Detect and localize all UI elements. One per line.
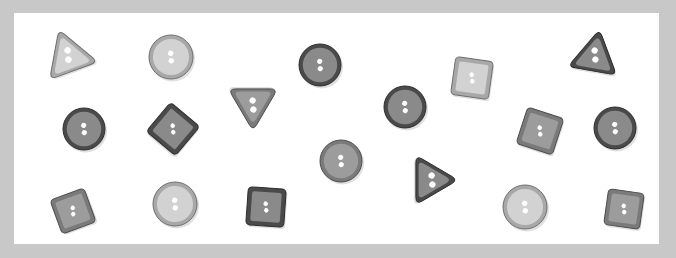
button-square-medium	[50, 187, 98, 236]
button-face	[157, 186, 193, 222]
button-circle-medium	[320, 140, 364, 185]
button-circle-light	[149, 35, 195, 82]
button-face	[608, 193, 640, 225]
button-face	[388, 90, 422, 124]
button-circle-dark	[594, 107, 638, 152]
button-circle-dark	[384, 86, 428, 131]
button-square-dark	[145, 102, 201, 158]
button-triangle-medium	[229, 87, 275, 128]
button-circle-light	[153, 182, 199, 229]
button-triangle-light	[38, 24, 97, 80]
button-square-dark	[246, 187, 288, 230]
button-face	[507, 189, 543, 225]
button-circle-light	[503, 185, 549, 232]
button-circle-dark	[63, 108, 107, 153]
button-face	[67, 112, 101, 146]
buttons-scene	[0, 0, 676, 258]
button-face	[153, 39, 189, 75]
button-square-medium	[515, 107, 565, 157]
button-face	[455, 61, 488, 94]
button-face	[324, 144, 358, 178]
button-circle-dark	[299, 44, 343, 89]
button-square-medium	[603, 189, 645, 232]
button-face	[598, 111, 632, 145]
button-triangle-dark	[570, 29, 622, 77]
button-triangle-dark	[414, 158, 455, 204]
button-face	[303, 48, 337, 82]
button-face	[250, 191, 282, 223]
button-square-light	[450, 57, 495, 102]
